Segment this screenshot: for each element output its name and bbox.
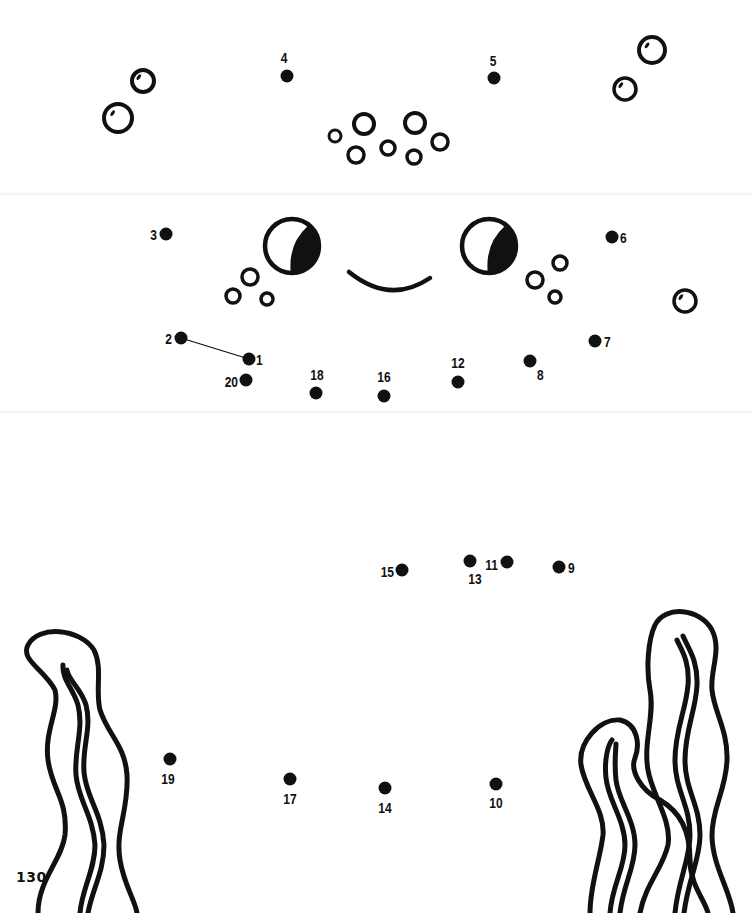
dot-marker[interactable] — [310, 387, 323, 400]
dot-18[interactable]: 18 — [310, 367, 325, 400]
dot-8[interactable]: 8 — [524, 355, 545, 384]
left-eye — [265, 219, 319, 273]
dot-label: 2 — [165, 331, 172, 348]
dot-14[interactable]: 14 — [378, 782, 392, 817]
dot-4[interactable]: 4 — [281, 50, 294, 83]
dot-label: 12 — [451, 355, 465, 372]
dot-marker[interactable] — [464, 555, 477, 568]
dot-label: 8 — [537, 367, 544, 384]
dot-marker[interactable] — [490, 778, 503, 791]
dot-marker[interactable] — [452, 376, 465, 389]
dot-marker[interactable] — [243, 353, 256, 366]
bubble — [432, 134, 448, 150]
dot-marker[interactable] — [501, 556, 514, 569]
dot-label: 17 — [283, 791, 296, 808]
connector-line — [181, 338, 249, 359]
dot-1[interactable]: 1 — [243, 352, 264, 369]
dot-to-dot-illustration: 1234567891011121314151617181920 — [0, 0, 753, 913]
bubble — [639, 37, 665, 63]
bubble — [348, 147, 364, 163]
dot-marker[interactable] — [396, 564, 409, 577]
bubble — [674, 290, 696, 312]
dot-label: 14 — [378, 800, 392, 817]
bubble — [226, 289, 240, 303]
dot-marker[interactable] — [164, 753, 177, 766]
bubble — [527, 272, 543, 288]
dot-label: 16 — [377, 369, 391, 386]
bubble — [132, 70, 154, 92]
dot-marker[interactable] — [488, 72, 501, 85]
page-number: 130 — [16, 869, 47, 885]
bubble — [329, 130, 341, 142]
dot-17[interactable]: 17 — [283, 773, 296, 808]
dot-3[interactable]: 3 — [150, 227, 172, 244]
dot-marker[interactable] — [284, 773, 297, 786]
dot-10[interactable]: 10 — [489, 778, 502, 812]
dot-13[interactable]: 13 — [464, 555, 483, 588]
creature-face — [265, 219, 516, 290]
connector-lines — [181, 338, 249, 359]
dot-label: 10 — [489, 795, 502, 812]
seaweed-group — [26, 612, 733, 913]
dot-marker[interactable] — [240, 374, 253, 387]
dot-label: 6 — [620, 230, 627, 247]
dot-label: 18 — [310, 367, 324, 384]
dot-label: 7 — [604, 334, 611, 351]
seaweed-right — [581, 612, 733, 913]
right-eye — [462, 219, 516, 273]
dot-label: 19 — [161, 771, 175, 788]
dot-marker[interactable] — [160, 228, 173, 241]
bubble — [354, 114, 374, 134]
bubble — [261, 293, 273, 305]
dot-label: 11 — [485, 557, 498, 574]
dot-2[interactable]: 2 — [165, 331, 187, 348]
dot-label: 4 — [281, 50, 288, 67]
dot-marker[interactable] — [589, 335, 602, 348]
bubble — [549, 291, 561, 303]
bubble — [104, 104, 132, 132]
dot-5[interactable]: 5 — [488, 53, 501, 85]
dot-label: 5 — [490, 53, 497, 70]
bubble — [405, 113, 425, 133]
dot-label: 1 — [256, 352, 263, 369]
bubble — [553, 256, 567, 270]
dot-15[interactable]: 15 — [381, 564, 409, 581]
dot-11[interactable]: 11 — [485, 556, 513, 574]
dot-marker[interactable] — [379, 782, 392, 795]
dot-9[interactable]: 9 — [553, 560, 576, 577]
dot-marker[interactable] — [553, 561, 566, 574]
bubble — [614, 78, 636, 100]
dot-12[interactable]: 12 — [451, 355, 465, 389]
dot-7[interactable]: 7 — [589, 334, 611, 351]
bubble — [407, 150, 421, 164]
dot-marker[interactable] — [606, 231, 619, 244]
smile-mouth — [349, 272, 430, 290]
dot-marker[interactable] — [175, 332, 188, 345]
bubble — [381, 141, 395, 155]
bubble-group — [104, 37, 696, 312]
dot-marker[interactable] — [281, 70, 294, 83]
dot-label: 9 — [568, 560, 575, 577]
bubble — [242, 269, 258, 285]
dot-label: 3 — [150, 227, 157, 244]
numbered-dots: 1234567891011121314151617181920 — [150, 50, 627, 817]
dot-20[interactable]: 20 — [225, 374, 253, 391]
dot-19[interactable]: 19 — [161, 753, 176, 788]
dot-6[interactable]: 6 — [606, 230, 628, 247]
dot-16[interactable]: 16 — [377, 369, 391, 403]
dot-label: 15 — [381, 564, 395, 581]
dot-label: 13 — [468, 571, 482, 588]
dot-marker[interactable] — [524, 355, 537, 368]
dot-marker[interactable] — [378, 390, 391, 403]
dot-label: 20 — [225, 374, 238, 391]
